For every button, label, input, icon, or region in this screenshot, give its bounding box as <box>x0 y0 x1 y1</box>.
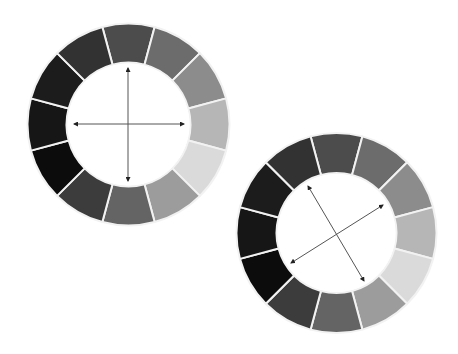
diagram-canvas <box>0 0 458 354</box>
color-wheel-upright <box>27 24 229 226</box>
wheel-center <box>278 174 396 292</box>
color-wheel-rotated-axes <box>237 133 437 333</box>
